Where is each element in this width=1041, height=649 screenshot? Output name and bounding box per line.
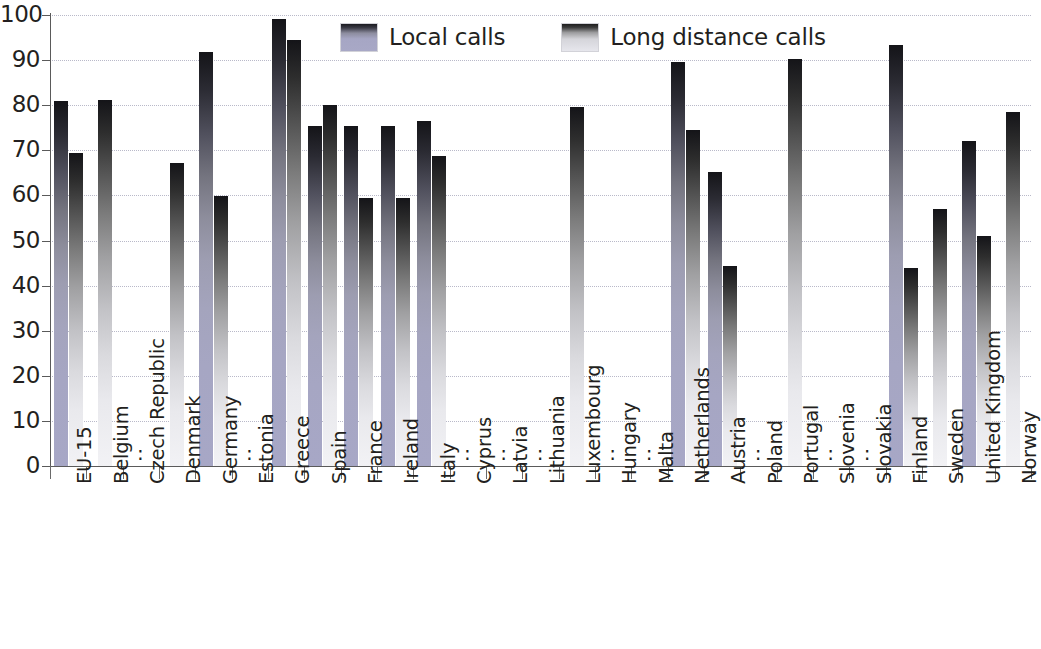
x-axis-label-italy: Italy bbox=[439, 443, 459, 484]
y-tick-label-100: 100 bbox=[0, 3, 40, 26]
x-axis-label-hungary: Hungary bbox=[620, 402, 640, 484]
missing-data-marker-16: : bbox=[646, 443, 654, 463]
x-axis-label-belgium: Belgium bbox=[112, 405, 132, 484]
legend-label-long-distance-calls: Long distance calls bbox=[610, 26, 825, 49]
x-axis-label-denmark: Denmark bbox=[184, 396, 204, 484]
missing-data-marker-22: : bbox=[864, 443, 872, 463]
bar-long-distance-7 bbox=[323, 105, 337, 466]
y-tick-mark bbox=[42, 195, 50, 196]
x-axis-label-portugal: Portugal bbox=[802, 405, 822, 484]
x-axis-label-lithuania: Lithuania bbox=[548, 395, 568, 484]
x-axis-label-malta: Malta bbox=[657, 431, 677, 484]
chart-legend: Local calls Long distance calls bbox=[340, 23, 826, 52]
y-tick-label-40: 40 bbox=[0, 274, 40, 297]
y-axis bbox=[50, 13, 51, 468]
bar-local-6 bbox=[272, 19, 286, 466]
legend-swatch-long-distance-calls bbox=[561, 23, 599, 52]
gridline bbox=[50, 376, 1031, 377]
x-axis-label-poland: Poland bbox=[766, 420, 786, 484]
x-axis-label-czech-republic: Czech Republic bbox=[148, 338, 168, 484]
x-axis-label-luxembourg: Luxembourg bbox=[584, 364, 604, 484]
gridline bbox=[50, 195, 1031, 196]
x-axis-label-slovenia: Slovenia bbox=[838, 403, 858, 484]
gridline bbox=[50, 15, 1031, 16]
missing-data-marker-13: : bbox=[537, 443, 545, 463]
legend-label-local-calls: Local calls bbox=[389, 26, 505, 49]
legend-item-local-calls: Local calls bbox=[340, 23, 505, 52]
y-tick-mark bbox=[42, 241, 50, 242]
missing-data-marker-5: : bbox=[246, 443, 254, 463]
x-tick-mark bbox=[50, 466, 51, 479]
y-tick-label-30: 30 bbox=[0, 319, 40, 342]
missing-data-marker-19: : bbox=[755, 443, 763, 463]
x-axis-label-greece: Greece bbox=[293, 416, 313, 484]
y-tick-label-90: 90 bbox=[0, 48, 40, 71]
y-tick-mark bbox=[42, 331, 50, 332]
x-axis-label-netherlands: Netherlands bbox=[693, 367, 713, 484]
x-axis-label-sweden: Sweden bbox=[947, 408, 967, 484]
missing-data-marker-12: : bbox=[500, 443, 508, 463]
missing-data-marker-11: : bbox=[464, 443, 472, 463]
y-tick-label-10: 10 bbox=[0, 409, 40, 432]
y-tick-label-50: 50 bbox=[0, 229, 40, 252]
bar-local-9 bbox=[381, 126, 395, 466]
y-tick-mark bbox=[42, 150, 50, 151]
bar-long-distance-6 bbox=[287, 40, 301, 466]
x-axis-label-estonia: Estonia bbox=[257, 414, 277, 484]
bar-long-distance-0 bbox=[69, 153, 83, 466]
y-tick-label-60: 60 bbox=[0, 183, 40, 206]
missing-data-marker-15: : bbox=[609, 443, 617, 463]
bar-local-10 bbox=[417, 121, 431, 466]
y-tick-mark bbox=[42, 15, 50, 16]
x-axis-label-austria: Austria bbox=[729, 417, 749, 485]
bar-local-8 bbox=[344, 126, 358, 466]
legend-swatch-local-calls bbox=[340, 23, 378, 52]
y-tick-mark bbox=[42, 105, 50, 106]
y-tick-label-20: 20 bbox=[0, 364, 40, 387]
x-axis-label-slovakia: Slovakia bbox=[875, 404, 895, 484]
y-tick-label-70: 70 bbox=[0, 138, 40, 161]
x-axis-label-finland: Finland bbox=[911, 416, 931, 484]
y-tick-mark bbox=[42, 60, 50, 61]
bar-long-distance-10 bbox=[432, 156, 446, 466]
x-axis-label-ireland: Ireland bbox=[402, 418, 422, 484]
y-tick-mark bbox=[42, 421, 50, 422]
bar-local-0 bbox=[54, 101, 68, 466]
x-axis-label-spain: Spain bbox=[330, 431, 350, 484]
y-tick-mark bbox=[42, 466, 50, 467]
legend-item-long-distance-calls: Long distance calls bbox=[561, 23, 825, 52]
y-tick-label-0: 0 bbox=[0, 454, 40, 477]
gridline bbox=[50, 286, 1031, 287]
gridline bbox=[50, 150, 1031, 151]
x-axis-label-latvia: Latvia bbox=[511, 426, 531, 484]
missing-data-marker-2: : bbox=[137, 443, 145, 463]
gridline bbox=[50, 241, 1031, 242]
gridline bbox=[50, 331, 1031, 332]
y-tick-mark bbox=[42, 376, 50, 377]
x-axis-label-norway: Norway bbox=[1020, 411, 1040, 484]
gridline bbox=[50, 105, 1031, 106]
y-tick-label-80: 80 bbox=[0, 93, 40, 116]
x-axis-label-cyprus: Cyprus bbox=[475, 417, 495, 484]
gridline bbox=[50, 60, 1031, 61]
bar-local-17 bbox=[671, 62, 685, 466]
x-axis-label-germany: Germany bbox=[221, 396, 241, 484]
missing-data-marker-21: : bbox=[827, 443, 835, 463]
y-tick-mark bbox=[42, 286, 50, 287]
x-axis-label-eu-15: EU-15 bbox=[75, 427, 95, 484]
x-axis-label-united-kingdom: United Kingdom bbox=[984, 330, 1004, 484]
x-axis-label-france: France bbox=[366, 420, 386, 484]
